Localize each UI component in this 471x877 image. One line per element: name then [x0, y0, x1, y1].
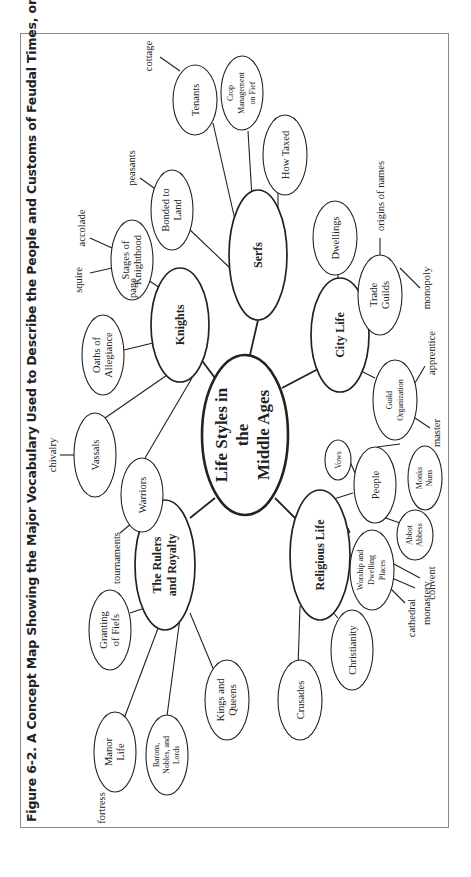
- node-crop-management: Crop Management on Fief: [221, 56, 263, 130]
- node-tenants: Tenants: [173, 65, 217, 135]
- word-peasants: peasants: [126, 150, 137, 186]
- svg-text:Warriors: Warriors: [137, 477, 148, 513]
- node-granting-of-fiefs: Granting of Fiefs: [89, 590, 131, 670]
- svg-text:Organization: Organization: [396, 379, 405, 421]
- word-origins-of-names: origins of names: [375, 161, 386, 231]
- word-chivalry: chivalry: [47, 437, 58, 472]
- svg-text:How Taxed: How Taxed: [280, 130, 291, 179]
- svg-text:Guild: Guild: [385, 391, 394, 409]
- word-squire: squire: [73, 267, 84, 293]
- svg-text:Allegiance: Allegiance: [103, 332, 114, 378]
- node-crusades: Crusades: [278, 660, 322, 740]
- svg-text:Manor: Manor: [103, 738, 114, 766]
- node-abbot-abbess: Abbot Abbess: [397, 510, 433, 560]
- svg-text:Queens: Queens: [227, 684, 238, 716]
- concept-map: Life Styles in the Middle Ages Serfs Kni…: [20, 33, 449, 828]
- node-vassals: Vassals: [74, 413, 116, 497]
- svg-text:Middle Ages: Middle Ages: [254, 390, 273, 481]
- svg-text:Oaths of: Oaths of: [91, 337, 102, 373]
- svg-text:Land: Land: [172, 198, 183, 220]
- svg-text:Knights: Knights: [173, 304, 187, 345]
- node-how-taxed: How Taxed: [263, 115, 307, 195]
- svg-text:Christianity: Christianity: [347, 624, 358, 674]
- node-center: Life Styles in the Middle Ages: [202, 355, 288, 515]
- node-barons-nobles-lords: Barons, Nobles, and Lords: [146, 715, 188, 795]
- node-vows: Vows: [325, 440, 351, 480]
- word-cathedral: cathedral: [406, 599, 417, 638]
- node-dwellings: Dwellings: [313, 201, 357, 275]
- svg-text:Guilds: Guilds: [380, 281, 391, 309]
- svg-text:Places: Places: [378, 560, 387, 580]
- svg-text:Vows: Vows: [334, 451, 343, 469]
- svg-text:Granting: Granting: [98, 611, 109, 649]
- svg-text:Religious Life: Religious Life: [313, 519, 327, 591]
- word-master: master: [431, 419, 442, 447]
- node-religious-life: Religious Life: [290, 490, 350, 620]
- svg-text:Stages of: Stages of: [120, 240, 131, 279]
- svg-text:Nuns: Nuns: [425, 470, 434, 487]
- svg-text:City Life: City Life: [333, 311, 347, 357]
- svg-text:The Rulers: The Rulers: [150, 536, 164, 593]
- node-trade-guilds: Trade Guilds: [358, 255, 402, 335]
- node-knights: Knights: [151, 268, 209, 382]
- node-kings-and-queens: Kings and Queens: [205, 660, 249, 740]
- svg-text:Tenants: Tenants: [190, 84, 201, 117]
- svg-text:Crusades: Crusades: [295, 681, 306, 720]
- svg-text:Management: Management: [237, 71, 246, 114]
- node-guild-organization: Guild Organization: [373, 360, 417, 440]
- svg-text:People: People: [370, 470, 381, 499]
- svg-text:Dwellings: Dwellings: [330, 216, 341, 259]
- word-tournaments: tournaments: [111, 532, 122, 584]
- word-monopoly: monopoly: [421, 266, 432, 309]
- node-worship-dwelling-places: Worship and Dwelling Places: [350, 530, 394, 610]
- svg-text:Abbot: Abbot: [405, 524, 414, 545]
- node-people: People: [354, 447, 396, 523]
- node-manor-life: Manor Life: [94, 712, 136, 792]
- svg-text:Nobles, and: Nobles, and: [162, 736, 171, 774]
- svg-text:Kings and: Kings and: [215, 678, 226, 722]
- svg-text:on Fief: on Fief: [248, 81, 257, 104]
- svg-text:Abbess: Abbess: [415, 523, 424, 547]
- word-accolade: accolade: [76, 209, 87, 246]
- word-convent: convent: [426, 566, 437, 599]
- svg-text:Barons,: Barons,: [152, 743, 161, 768]
- node-oaths-of-allegiance: Oaths of Allegiance: [82, 315, 124, 395]
- word-cottage: cottage: [143, 41, 154, 72]
- word-page: page: [127, 278, 138, 298]
- svg-text:Lords: Lords: [172, 746, 181, 765]
- node-christianity: Christianity: [331, 610, 373, 690]
- word-apprentice: apprentice: [426, 331, 437, 375]
- word-fortress: fortress: [96, 792, 107, 824]
- node-warriors: Warriors: [121, 458, 163, 532]
- svg-text:Serfs: Serfs: [251, 242, 265, 268]
- svg-text:Life: Life: [115, 743, 126, 761]
- node-monks-nuns: Monks Nuns: [408, 446, 442, 510]
- svg-text:Crop: Crop: [226, 85, 235, 101]
- svg-text:of Fiefs: of Fiefs: [110, 614, 121, 646]
- svg-text:the: the: [233, 423, 252, 446]
- node-bonded-to-land: Bonded to Land: [151, 170, 193, 250]
- svg-text:Monks: Monks: [415, 467, 424, 489]
- concept-map-page: Figure 6-2. A Concept Map Showing the Ma…: [20, 33, 449, 828]
- node-serfs: Serfs: [229, 190, 287, 320]
- svg-text:Trade: Trade: [368, 283, 379, 307]
- svg-text:Life Styles in: Life Styles in: [212, 387, 231, 482]
- svg-text:Vassals: Vassals: [90, 440, 101, 471]
- svg-text:Dwelling: Dwelling: [367, 555, 376, 585]
- svg-text:and Royalty: and Royalty: [165, 534, 179, 596]
- svg-text:Worship and: Worship and: [356, 550, 365, 590]
- svg-text:Bonded to: Bonded to: [160, 188, 171, 231]
